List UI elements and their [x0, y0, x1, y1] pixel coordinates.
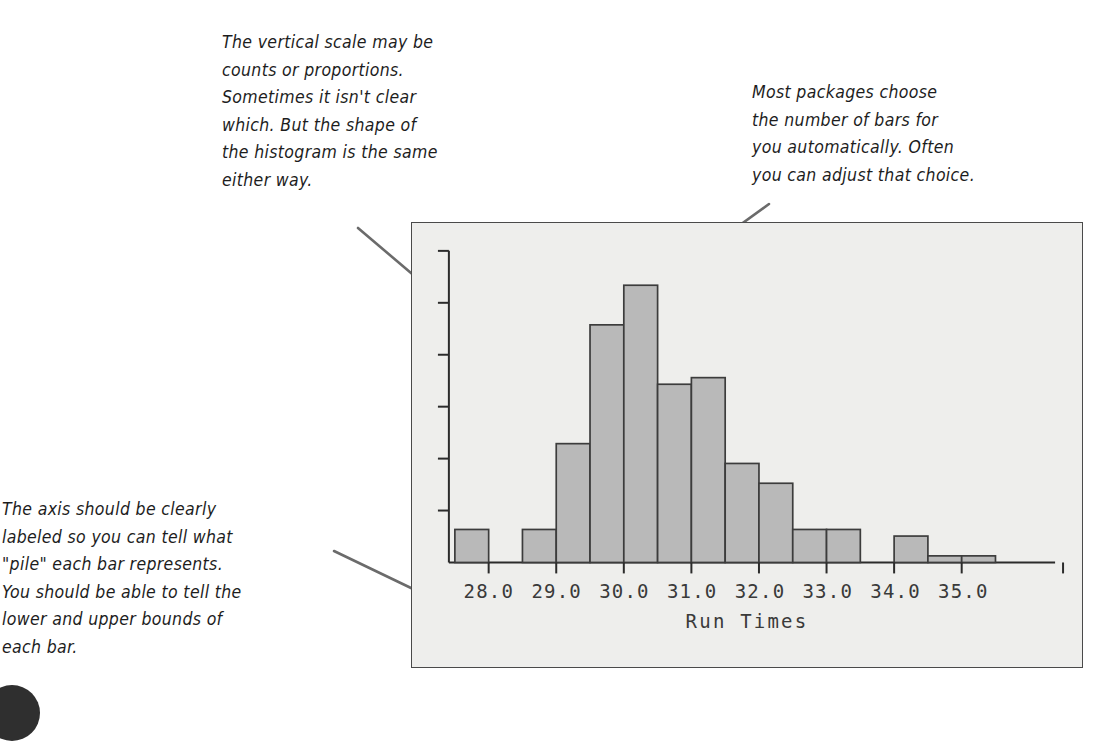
histogram-bar [522, 529, 556, 562]
histogram-bar [556, 444, 590, 563]
x-tick-label: 31.0 [667, 580, 718, 602]
annotation-number-of-bars: Most packages choose the number of bars … [752, 79, 1052, 189]
histogram-bar [894, 536, 928, 562]
histogram-bar [759, 483, 793, 562]
histogram-bar [793, 529, 827, 562]
x-axis-title: Run Times [686, 610, 809, 632]
histogram-bar [590, 325, 624, 563]
histogram-chart: 28.029.030.031.032.033.034.035.0 Run Tim… [411, 222, 1083, 668]
histogram-bar [725, 463, 759, 562]
x-tick-label: 32.0 [735, 580, 786, 602]
x-tick-label: 29.0 [531, 580, 582, 602]
page-corner-mark [0, 685, 40, 741]
x-tick-label: 33.0 [802, 580, 853, 602]
histogram-bar [928, 556, 962, 563]
histogram-bar [827, 529, 861, 562]
annotation-vertical-scale: The vertical scale may be counts or prop… [222, 29, 532, 194]
histogram-bar [658, 384, 692, 562]
x-tick-label: 30.0 [599, 580, 650, 602]
histogram-bar [455, 529, 489, 562]
annotation-axis-label: The axis should be clearly labeled so yo… [2, 496, 354, 661]
x-tick-label: 35.0 [938, 580, 989, 602]
histogram-bar [624, 285, 658, 562]
x-tick-label: 34.0 [870, 580, 921, 602]
histogram-bar [691, 378, 725, 563]
x-tick-label: 28.0 [464, 580, 515, 602]
histogram-bar [962, 556, 996, 563]
